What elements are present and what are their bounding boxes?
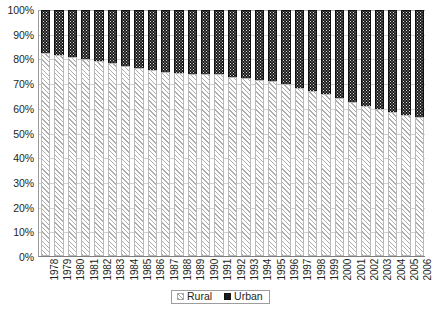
y-axis-tick-label: 80%: [0, 54, 34, 64]
bar-segment-rural: [361, 106, 370, 256]
bar-segment-rural: [214, 74, 223, 256]
bar-group: [281, 10, 290, 256]
y-axis-tick-label: 90%: [0, 30, 34, 40]
chart-legend: Rural Urban: [171, 290, 270, 304]
bar-segment-urban: [388, 10, 397, 113]
bar-group: [174, 10, 183, 256]
bar-group: [201, 10, 210, 256]
bar-segment-rural: [174, 73, 183, 256]
bar-segment-urban: [308, 10, 317, 92]
legend-item-rural: Rural: [177, 291, 212, 302]
y-axis: 100%90%80%70%60%50%40%30%20%10%0%: [0, 10, 34, 257]
bar-segment-rural: [148, 70, 157, 256]
x-axis-tick-label: 1987: [169, 259, 180, 280]
y-axis-tick-label: 30%: [0, 178, 34, 188]
bar-group: [255, 10, 264, 256]
bar-segment-urban: [174, 10, 183, 74]
bar-group: [134, 10, 143, 256]
bar-segment-urban: [54, 10, 63, 56]
bar-segment-urban: [281, 10, 290, 85]
x-axis-tick-label: 2005: [409, 259, 420, 280]
bar-group: [94, 10, 103, 256]
bar-group: [401, 10, 410, 256]
bar-segment-urban: [68, 10, 77, 58]
bar-segment-rural: [54, 55, 63, 256]
x-axis-tick-label: 1999: [329, 259, 340, 280]
bar-group: [295, 10, 304, 256]
legend-item-label: Urban: [234, 291, 263, 302]
bar-segment-rural: [281, 84, 290, 256]
plot-area: [38, 10, 425, 257]
bar-segment-rural: [108, 63, 117, 256]
bar-group: [54, 10, 63, 256]
bar-group: [308, 10, 317, 256]
bar-segment-rural: [321, 94, 330, 256]
bar-group: [41, 10, 50, 256]
bar-group: [214, 10, 223, 256]
bar-segment-rural: [401, 115, 410, 256]
bar-group: [81, 10, 90, 256]
bar-segment-urban: [81, 10, 90, 60]
bar-segment-rural: [41, 53, 50, 256]
x-axis-tick-label: 1985: [142, 259, 153, 280]
x-axis-tick-label: 1997: [302, 259, 313, 280]
bar-group: [108, 10, 117, 256]
bar-segment-urban: [214, 10, 223, 75]
stacked-bar-chart: 100%90%80%70%60%50%40%30%20%10%0% 197819…: [0, 0, 436, 318]
bar-segment-urban: [41, 10, 50, 54]
bar-group: [321, 10, 330, 256]
bar-segment-urban: [268, 10, 277, 82]
x-axis-tick-label: 1992: [236, 259, 247, 280]
bar-segment-urban: [108, 10, 117, 64]
x-axis-tick-label: 1989: [195, 259, 206, 280]
bar-segment-rural: [161, 72, 170, 256]
bar-segment-urban: [148, 10, 157, 71]
bar-segment-rural: [68, 57, 77, 256]
y-axis-tick-label: 0%: [0, 252, 34, 262]
dark-swatch-icon: [224, 293, 231, 300]
x-axis-tick-label: 2006: [422, 259, 433, 280]
bar-segment-urban: [241, 10, 250, 79]
x-axis-tick-label: 2000: [342, 259, 353, 280]
bar-segment-urban: [201, 10, 210, 75]
x-axis-tick-label: 1996: [289, 259, 300, 280]
legend-item-label: Rural: [187, 291, 212, 302]
bar-segment-rural: [415, 117, 424, 256]
bar-segment-rural: [348, 102, 357, 256]
bar-segment-urban: [121, 10, 130, 67]
bar-group: [148, 10, 157, 256]
bars-layer: [39, 10, 425, 256]
bar-group: [241, 10, 250, 256]
x-axis-tick-label: 1991: [222, 259, 233, 280]
bar-group: [161, 10, 170, 256]
y-axis-tick-label: 50%: [0, 129, 34, 139]
bar-segment-urban: [401, 10, 410, 116]
x-axis-tick-label: 1983: [115, 259, 126, 280]
bar-segment-urban: [228, 10, 237, 78]
bar-segment-rural: [228, 77, 237, 256]
x-axis-tick-label: 2001: [356, 259, 367, 280]
bar-group: [388, 10, 397, 256]
hatched-swatch-icon: [177, 293, 184, 300]
bar-segment-urban: [375, 10, 384, 110]
bar-group: [188, 10, 197, 256]
bar-segment-rural: [94, 61, 103, 256]
x-axis-tick-label: 1986: [155, 259, 166, 280]
bar-segment-rural: [134, 68, 143, 256]
bar-group: [375, 10, 384, 256]
bar-segment-rural: [241, 78, 250, 256]
x-axis-tick-label: 1993: [249, 259, 260, 280]
x-axis-tick-label: 1990: [209, 259, 220, 280]
y-axis-tick-label: 40%: [0, 153, 34, 163]
bar-segment-rural: [308, 91, 317, 256]
bar-segment-urban: [188, 10, 197, 75]
x-axis-tick-label: 1978: [49, 259, 60, 280]
bar-group: [348, 10, 357, 256]
x-axis-tick-label: 1994: [262, 259, 273, 280]
x-axis-tick-label: 1988: [182, 259, 193, 280]
bar-segment-rural: [295, 88, 304, 256]
x-axis-tick-label: 1984: [129, 259, 140, 280]
bar-segment-urban: [361, 10, 370, 107]
bar-group: [268, 10, 277, 256]
x-axis-tick-label: 1979: [62, 259, 73, 280]
